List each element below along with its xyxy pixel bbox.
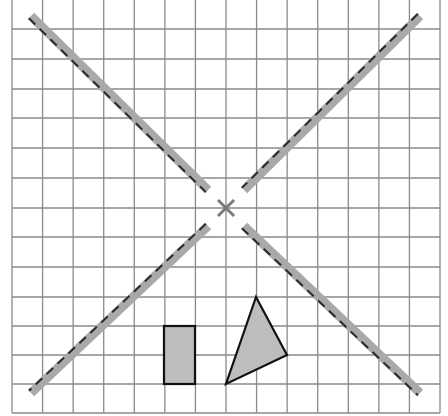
grid-diagram [0,0,448,416]
shaded-rectangle [164,326,195,384]
